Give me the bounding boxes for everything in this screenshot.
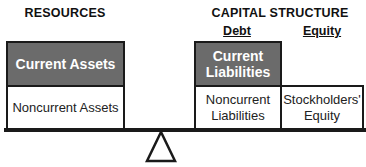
noncurrent-assets-box: Noncurrent Assets — [6, 85, 125, 130]
noncurrent-assets-label: Noncurrent Assets — [12, 100, 118, 116]
resources-heading: RESOURCES — [6, 6, 124, 20]
stockholders-equity-box: Stockholders' Equity — [280, 85, 364, 130]
debt-heading: Debt — [194, 24, 280, 38]
noncurrent-liabilities-label-2: Liabilities — [211, 108, 264, 124]
equity-heading: Equity — [280, 24, 364, 38]
current-assets-label: Current Assets — [16, 56, 116, 72]
current-assets-box: Current Assets — [6, 41, 125, 87]
stockholders-equity-label-1: Stockholders' — [283, 92, 361, 108]
fulcrum-triangle-icon — [144, 130, 178, 164]
noncurrent-liabilities-label-1: Noncurrent — [206, 92, 270, 108]
capital-structure-heading: CAPITAL STRUCTURE — [194, 6, 366, 20]
stockholders-equity-label-2: Equity — [304, 108, 340, 124]
noncurrent-liabilities-box: Noncurrent Liabilities — [194, 85, 282, 130]
current-liabilities-box: Current Liabilities — [194, 41, 282, 87]
current-liabilities-label-2: Liabilities — [206, 64, 271, 80]
current-liabilities-label-1: Current — [213, 48, 264, 64]
balance-beam — [4, 128, 366, 132]
